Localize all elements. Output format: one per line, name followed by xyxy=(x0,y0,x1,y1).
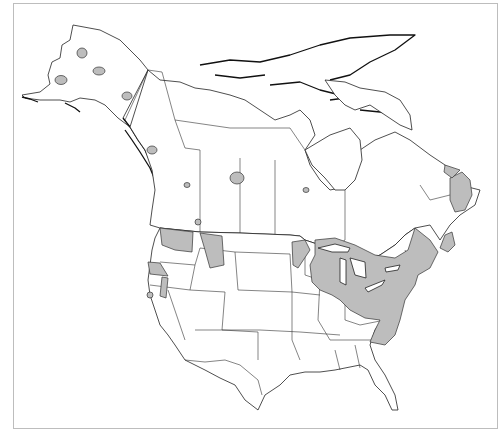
baffin-island xyxy=(325,80,412,130)
north-america-map xyxy=(0,0,500,434)
